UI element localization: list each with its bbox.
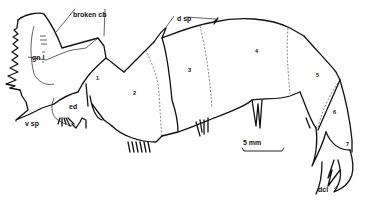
segment-2 xyxy=(112,42,162,152)
label-d-sp: d sp xyxy=(177,15,191,22)
gnathobase xyxy=(6,13,106,128)
label-broken-cb: broken cb xyxy=(73,11,106,18)
segment-number-4: 4 xyxy=(255,49,258,55)
appendage-drawing xyxy=(0,0,365,202)
segment-number-1: 1 xyxy=(96,76,99,82)
label-v-sp: v sp xyxy=(25,120,39,127)
segment-number-3: 3 xyxy=(188,68,191,74)
scale-bar-label: 5 mm xyxy=(243,139,261,146)
segment-5 xyxy=(300,36,340,130)
scale-bar xyxy=(242,148,284,151)
segment-number-6: 6 xyxy=(333,110,336,116)
segment-1 xyxy=(78,58,124,126)
label-dcl: dcl xyxy=(318,186,328,193)
label-ed: ed xyxy=(69,103,77,110)
segment-number-7: 7 xyxy=(346,142,349,148)
label-gn-l: gn l xyxy=(32,54,44,61)
segment-number-2: 2 xyxy=(133,91,136,97)
segment-3 xyxy=(154,18,218,136)
segment-number-5: 5 xyxy=(316,73,319,79)
segment-4 xyxy=(214,19,304,128)
